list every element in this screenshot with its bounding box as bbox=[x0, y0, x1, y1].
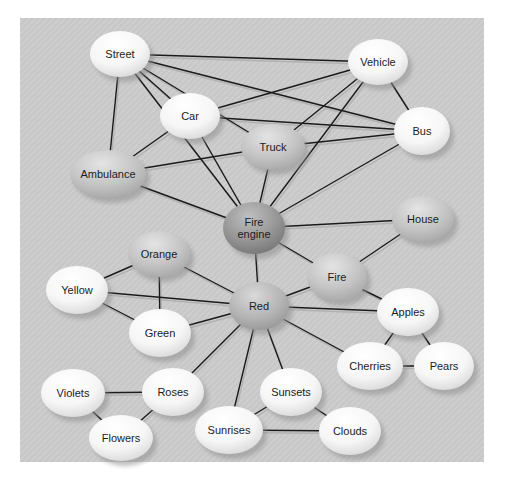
node-ellipse-red bbox=[229, 282, 289, 330]
node-ellipse-bus bbox=[394, 107, 450, 155]
node-ellipse-ambulance bbox=[70, 150, 146, 198]
semantic-network-diagram: StreetVehicleCarBusTruckAmbulanceFireeng… bbox=[0, 0, 511, 495]
node-ellipse-car bbox=[160, 93, 220, 139]
node-ellipse-roses bbox=[142, 368, 204, 416]
node-ellipse-yellow bbox=[46, 266, 108, 314]
node-ellipse-green bbox=[129, 309, 191, 357]
node-ellipse-pears bbox=[414, 342, 474, 390]
node-ellipse-orange bbox=[128, 231, 190, 277]
node-ellipse-fireengine bbox=[223, 202, 285, 254]
node-ellipse-vehicle bbox=[348, 39, 408, 85]
node-ellipse-apples bbox=[377, 288, 439, 336]
node-ellipse-house bbox=[392, 196, 454, 242]
node-ellipse-sunrises bbox=[195, 406, 263, 454]
node-ellipse-clouds bbox=[319, 407, 381, 455]
node-ellipse-violets bbox=[41, 369, 105, 417]
node-ellipse-truck bbox=[241, 124, 305, 170]
node-ellipse-cherries bbox=[337, 342, 403, 390]
node-ellipse-sunsets bbox=[260, 368, 322, 416]
figure-canvas: StreetVehicleCarBusTruckAmbulanceFireeng… bbox=[0, 0, 511, 495]
node-ellipse-street bbox=[90, 31, 150, 77]
node-ellipse-fire bbox=[307, 253, 367, 301]
node-ellipse-flowers bbox=[89, 415, 153, 461]
